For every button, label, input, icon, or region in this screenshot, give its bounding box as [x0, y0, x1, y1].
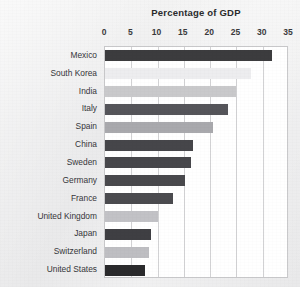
y-category-label: France — [71, 193, 97, 203]
chart-title: Percentage of GDP — [104, 7, 288, 18]
y-category-label: Germany — [63, 175, 97, 185]
y-category-label: Spain — [76, 121, 97, 131]
bar — [105, 50, 272, 61]
plot-area — [104, 46, 288, 278]
y-category-label: China — [75, 139, 97, 149]
x-tick-label: 30 — [257, 27, 266, 37]
y-category-label: Switzerland — [54, 246, 97, 256]
x-tick-label: 25 — [231, 27, 240, 37]
y-category-label: Italy — [82, 103, 97, 113]
y-category-label: Mexico — [70, 50, 97, 60]
y-category-label: United States — [47, 264, 97, 274]
x-axis-tick-labels: 05101520253035 — [104, 27, 288, 41]
bar-row — [105, 136, 287, 154]
bar — [105, 247, 149, 258]
bar-series — [105, 47, 287, 277]
bar-row — [105, 172, 287, 190]
bar — [105, 175, 185, 186]
bar — [105, 229, 151, 240]
y-category-label: Sweden — [67, 157, 97, 167]
bar — [105, 140, 193, 151]
bar-row — [105, 154, 287, 172]
bar — [105, 193, 173, 204]
x-tick-label: 10 — [152, 27, 161, 37]
bar-row — [105, 243, 287, 261]
bar — [105, 211, 158, 222]
bar — [105, 68, 251, 79]
bar-row — [105, 225, 287, 243]
bar-row — [105, 47, 287, 65]
bar-row — [105, 261, 287, 279]
bar-row — [105, 190, 287, 208]
x-tick-label: 0 — [102, 27, 107, 37]
x-tick-label: 35 — [283, 27, 292, 37]
chart-figure: Percentage of GDP 05101520253035 MexicoS… — [0, 0, 300, 287]
y-category-label: United Kingdom — [37, 211, 97, 221]
bar — [105, 265, 145, 276]
y-category-label: Japan — [74, 228, 97, 238]
bar-row — [105, 101, 287, 119]
bar-row — [105, 65, 287, 83]
bar-row — [105, 208, 287, 226]
y-axis-category-labels: MexicoSouth KoreaIndiaItalySpainChinaSwe… — [0, 46, 100, 278]
bar — [105, 122, 213, 133]
y-category-label: South Korea — [50, 68, 97, 78]
bar-row — [105, 83, 287, 101]
bar — [105, 157, 191, 168]
x-tick-label: 5 — [128, 27, 133, 37]
x-tick-label: 20 — [204, 27, 213, 37]
bar — [105, 86, 236, 97]
bar-row — [105, 118, 287, 136]
bar — [105, 104, 228, 115]
x-tick-label: 15 — [178, 27, 187, 37]
y-category-label: India — [79, 86, 97, 96]
